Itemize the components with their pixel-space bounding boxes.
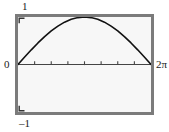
data-curve-sine xyxy=(18,17,151,65)
x-axis-max-label: 2π xyxy=(156,59,167,70)
curve-svg xyxy=(18,17,151,112)
plot-area xyxy=(18,17,151,112)
y-axis-min-label: –1 xyxy=(19,118,30,129)
plot-frame xyxy=(15,14,154,115)
figure-container: 1 –1 0 2π xyxy=(0,0,169,132)
y-axis-max-label: 1 xyxy=(22,1,28,12)
x-axis-min-label: 0 xyxy=(4,59,10,70)
